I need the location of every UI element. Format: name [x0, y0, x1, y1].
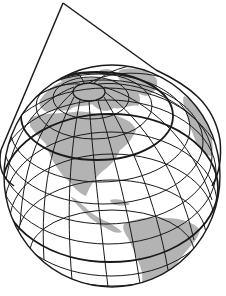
- cone-right-edge: [63, 3, 156, 70]
- conic-projection-diagram: [0, 0, 226, 296]
- diagram-canvas: [0, 0, 226, 296]
